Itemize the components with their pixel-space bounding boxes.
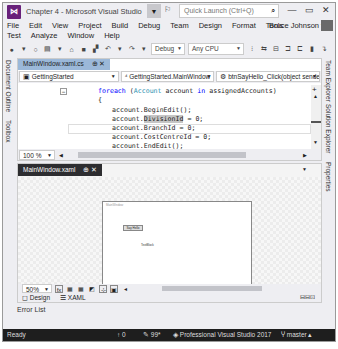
- tab-xaml-view[interactable]: ☰ XAML: [60, 294, 86, 302]
- zoom-select[interactable]: 100 %▼: [19, 150, 55, 160]
- code-area[interactable]: − foreach (Account account in assignedAc…: [18, 85, 311, 150]
- design-canvas[interactable]: MainWindow Say Hello TextBlock: [18, 177, 321, 285]
- platform-value: Any CPU: [192, 45, 219, 52]
- menu-view[interactable]: View: [52, 21, 68, 30]
- quick-launch-input[interactable]: Quick Launch (Ctrl+Q) ⌕: [179, 4, 279, 18]
- avatar[interactable]: [321, 20, 333, 31]
- branch-name[interactable]: Ⴤ master ▴: [281, 331, 313, 339]
- comment-icon[interactable]: ⊐: [283, 45, 292, 53]
- uncomment-icon[interactable]: ⊏: [295, 45, 304, 53]
- tab-solution-explorer[interactable]: Solution Explorer: [325, 104, 332, 154]
- effects-toggle-icon[interactable]: fx: [55, 285, 63, 293]
- navigate-back-icon[interactable]: ●: [7, 46, 16, 53]
- menu-debug[interactable]: Debug: [138, 21, 160, 30]
- designer-footer: 50%▼ fx ▦ ▦ ◩ ⊹ ▣ ◂ ◻ Design ☰ XAML ⊟⊟⊡: [18, 284, 321, 302]
- minimize-button[interactable]: —: [285, 5, 299, 15]
- dropdown-arrow-icon[interactable]: ▾: [55, 45, 64, 53]
- undo-icon[interactable]: ↶: [103, 45, 112, 53]
- tab-mainwindow-xaml-cs[interactable]: MainWindow.xaml.cs ⊕ ✕: [18, 59, 110, 70]
- vertical-scrollbar[interactable]: + ▲ ▼: [311, 85, 321, 151]
- search-icon: ⌕: [271, 6, 275, 16]
- right-tool-tabs: Team Explorer Solution Explorer Properti…: [323, 58, 335, 308]
- push-count[interactable]: ↑ 0: [117, 331, 126, 338]
- close-icon[interactable]: ✕: [99, 60, 105, 67]
- scroll-left-icon[interactable]: ◀: [59, 152, 63, 158]
- start-icon[interactable]: ⁝: [247, 45, 256, 53]
- tab-design-view[interactable]: ◻ Design: [22, 294, 50, 302]
- menu-test[interactable]: Test: [7, 31, 21, 40]
- menu-format[interactable]: Format: [232, 21, 256, 30]
- member-select[interactable]: ⚙ btnSayHello_Click(object sender▼: [216, 71, 320, 82]
- dropdown-arrow-icon[interactable]: ▾: [139, 45, 148, 53]
- collapse-icon[interactable]: −: [60, 88, 67, 95]
- say-hello-button-preview[interactable]: Say Hello: [123, 225, 143, 231]
- step-icon[interactable]: ⇆: [259, 45, 268, 53]
- close-icon[interactable]: ✕: [91, 166, 97, 173]
- format-icon[interactable]: ⊟: [271, 45, 280, 53]
- scroll-up-icon[interactable]: ▲: [313, 93, 318, 99]
- open-file-icon[interactable]: ⌂: [67, 46, 76, 53]
- scroll-down-icon[interactable]: ▼: [313, 139, 318, 145]
- save-all-icon[interactable]: ▞: [91, 45, 100, 53]
- pin-icon[interactable]: ⊕: [83, 166, 89, 173]
- menu-file[interactable]: File: [7, 21, 19, 30]
- menu-edit[interactable]: Edit: [29, 21, 42, 30]
- bookmark-next-icon[interactable]: ↴: [319, 45, 328, 53]
- xaml-designer-pane: MainWindow.xaml ⊕ ✕ ▼ MainWindow Say Hel…: [17, 163, 322, 303]
- scroll-left-icon[interactable]: ◂: [121, 285, 129, 293]
- repository-name[interactable]: ◈ Professional Visual Studio 2017: [173, 331, 271, 339]
- solution-configuration-select[interactable]: Debug▼: [151, 43, 185, 55]
- code-line: foreach (Account account in assignedAcco…: [98, 87, 277, 96]
- bookmark-icon[interactable]: ▮: [307, 45, 316, 53]
- snap-lines-icon[interactable]: ⊹: [99, 285, 107, 293]
- tab-team-explorer[interactable]: Team Explorer: [325, 60, 332, 102]
- user-account-name[interactable]: Bruce Johnson ▾: [269, 21, 325, 30]
- new-project-icon[interactable]: ▤: [43, 45, 52, 53]
- redo-icon[interactable]: ↷: [127, 45, 136, 53]
- tab-toolbox[interactable]: Toolbox: [5, 120, 12, 142]
- feedback-icon[interactable]: ⚐: [164, 5, 171, 14]
- save-icon[interactable]: ■: [79, 46, 88, 53]
- tab-document-outline[interactable]: Document Outline: [5, 60, 12, 112]
- csharp-project-icon: ▣: [23, 73, 32, 80]
- menu-help[interactable]: Help: [104, 31, 119, 40]
- tab-error-list[interactable]: Error List: [17, 306, 45, 313]
- designer-zoom-select[interactable]: 50%▼: [22, 284, 52, 293]
- scroll-right-icon[interactable]: ▶: [303, 152, 307, 158]
- solution-platform-select[interactable]: Any CPU▼: [188, 43, 244, 55]
- navigate-forward-icon[interactable]: ○: [31, 46, 40, 53]
- status-text: Ready: [7, 331, 26, 338]
- menu-team[interactable]: Team: [170, 21, 188, 30]
- menu-design[interactable]: Design: [199, 21, 222, 30]
- maximize-button[interactable]: ▭: [302, 5, 316, 15]
- chevron-down-icon[interactable]: ▼: [302, 166, 307, 172]
- textblock-preview[interactable]: TextBlock: [141, 243, 154, 247]
- close-button[interactable]: ✕: [319, 5, 333, 15]
- project-select[interactable]: ▣ GettingStarted▼: [19, 71, 119, 82]
- window-preview[interactable]: MainWindow Say Hello TextBlock: [102, 201, 252, 289]
- split-view-icons[interactable]: ⊟⊟⊡: [300, 293, 315, 300]
- horizontal-scrollbar[interactable]: [162, 286, 262, 291]
- repository-icon: ◈: [173, 331, 180, 338]
- chevron-down-icon: ▼: [206, 73, 211, 79]
- menu-window[interactable]: Window: [67, 31, 94, 40]
- menu-build[interactable]: Build: [112, 21, 129, 30]
- grid-icon[interactable]: ▦: [66, 285, 74, 293]
- chevron-down-icon: ▼: [312, 73, 317, 79]
- pending-edits[interactable]: ✎ 99*: [143, 331, 161, 339]
- dropdown-arrow-icon[interactable]: ▾: [115, 45, 124, 53]
- notification-filter-icon[interactable]: ▼: [147, 4, 161, 18]
- snap-grid-icon[interactable]: ▦: [77, 285, 85, 293]
- dropdown-arrow-icon[interactable]: ▾: [19, 45, 28, 53]
- horizontal-scrollbar[interactable]: [78, 152, 246, 158]
- xaml-icon: ☰: [60, 294, 68, 301]
- tab-mainwindow-xaml[interactable]: MainWindow.xaml ⊕ ✕: [18, 164, 102, 176]
- tab-properties[interactable]: Properties: [325, 162, 332, 192]
- class-select[interactable]: ⁴ GettingStarted.MainWindow▼: [121, 71, 215, 82]
- artboard-icon[interactable]: ◩: [88, 285, 96, 293]
- menu-project[interactable]: Project: [78, 21, 101, 30]
- scroll-thumb[interactable]: [311, 121, 321, 123]
- menu-analyze[interactable]: Analyze: [31, 31, 58, 40]
- device-preview-icon[interactable]: ▣: [110, 285, 118, 293]
- pin-icon[interactable]: ⊕: [92, 60, 98, 67]
